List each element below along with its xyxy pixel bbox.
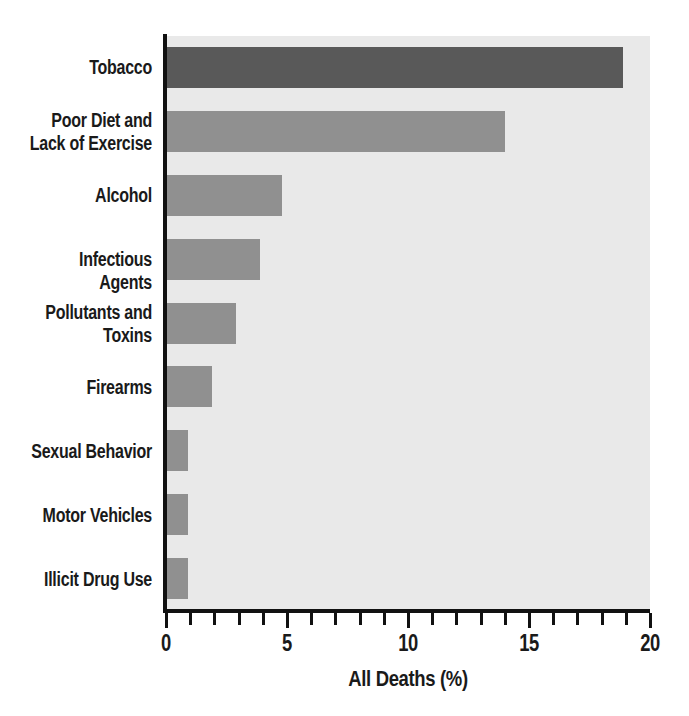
y-axis-label-line: Illicit Drug Use [25, 568, 152, 591]
x-tick-minor [238, 613, 241, 625]
y-axis-line [163, 34, 167, 613]
x-tick-minor [262, 613, 265, 625]
bar [166, 47, 623, 88]
x-tick-major [528, 613, 531, 628]
x-tick-minor [383, 613, 386, 625]
bars-layer [166, 36, 650, 611]
y-axis-label-1: Poor Diet andLack of Exercise [25, 109, 152, 155]
y-axis-label-line: Firearms [25, 376, 152, 399]
bar-row [166, 292, 650, 356]
bar [166, 239, 260, 280]
x-tick-minor [576, 613, 579, 625]
x-tick-major [286, 613, 289, 628]
bar-row [166, 228, 650, 292]
x-tick-label: 15 [501, 630, 557, 657]
y-axis-label-line: Lack of Exercise [25, 132, 152, 155]
x-tick-major [649, 613, 652, 628]
bar [166, 558, 188, 599]
bar [166, 430, 188, 471]
x-tick-minor [625, 613, 628, 625]
y-axis-label-7: Motor Vehicles [25, 504, 152, 527]
y-axis-label-6: Sexual Behavior [25, 440, 152, 463]
bar-row [166, 483, 650, 547]
y-axis-label-8: Illicit Drug Use [25, 568, 152, 591]
y-axis-label-4: Pollutants andToxins [25, 301, 152, 347]
x-tick-label: 20 [622, 630, 678, 657]
bar [166, 494, 188, 535]
bar-chart: TobaccoPoor Diet andLack of ExerciseAlco… [0, 0, 689, 716]
y-axis-category-labels: TobaccoPoor Diet andLack of ExerciseAlco… [0, 36, 160, 611]
x-tick-minor [504, 613, 507, 625]
bar [166, 175, 282, 216]
y-axis-label-0: Tobacco [25, 56, 152, 79]
y-axis-label-3: Infectious Agents [25, 248, 152, 294]
x-tick-major [165, 613, 168, 628]
y-axis-label-line: Tobacco [25, 56, 152, 79]
x-tick-minor [601, 613, 604, 625]
y-axis-label-5: Firearms [25, 376, 152, 399]
bar [166, 111, 505, 152]
bar-row [166, 36, 650, 100]
y-axis-label-line: Pollutants and [25, 301, 152, 324]
x-tick-minor [431, 613, 434, 625]
y-axis-label-line: Toxins [25, 324, 152, 347]
x-tick-minor [189, 613, 192, 625]
x-tick-minor [334, 613, 337, 625]
bar [166, 303, 236, 344]
x-axis-title: All Deaths (%) [205, 666, 612, 692]
bar-row [166, 419, 650, 483]
x-tick-minor [310, 613, 313, 625]
x-tick-label: 10 [380, 630, 436, 657]
y-axis-label-2: Alcohol [25, 184, 152, 207]
bar-row [166, 547, 650, 611]
y-axis-label-line: Infectious Agents [25, 248, 152, 294]
y-axis-label-line: Motor Vehicles [25, 504, 152, 527]
x-tick-label: 0 [138, 630, 194, 657]
bar-row [166, 164, 650, 228]
x-tick-label: 5 [259, 630, 315, 657]
x-axis-tick-labels: 05101520 [166, 630, 650, 664]
x-tick-minor [359, 613, 362, 625]
bar-row [166, 100, 650, 164]
x-tick-minor [552, 613, 555, 625]
x-tick-minor [480, 613, 483, 625]
y-axis-label-line: Sexual Behavior [25, 440, 152, 463]
y-axis-label-line: Poor Diet and [25, 109, 152, 132]
x-tick-minor [455, 613, 458, 625]
bar-row [166, 355, 650, 419]
bar [166, 366, 212, 407]
x-tick-minor [213, 613, 216, 625]
x-tick-major [407, 613, 410, 628]
y-axis-label-line: Alcohol [25, 184, 152, 207]
